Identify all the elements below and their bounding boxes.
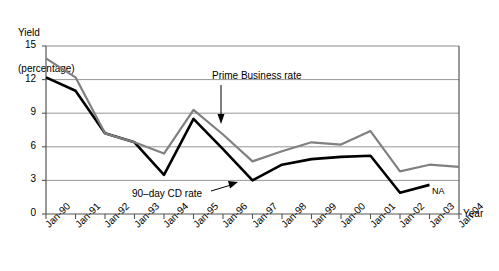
arrow-cd-head (228, 181, 238, 189)
plot-area (0, 0, 499, 271)
y-tick-label: 9 (14, 106, 36, 117)
series-line (46, 58, 459, 171)
y-tick-label: 6 (14, 140, 36, 151)
y-tick-label: 12 (14, 73, 36, 84)
y-tick-label: 3 (14, 173, 36, 184)
series-line (46, 77, 430, 192)
y-tick-label: 15 (14, 39, 36, 50)
yield-line-chart: Yield (percentage) Year Prime Business r… (0, 0, 499, 271)
arrow-prime-head (218, 114, 225, 124)
annotation-arrows (211, 85, 238, 191)
y-tick-label: 0 (14, 207, 36, 218)
series-lines (46, 58, 459, 192)
arrow-cd-shaft (211, 185, 231, 191)
